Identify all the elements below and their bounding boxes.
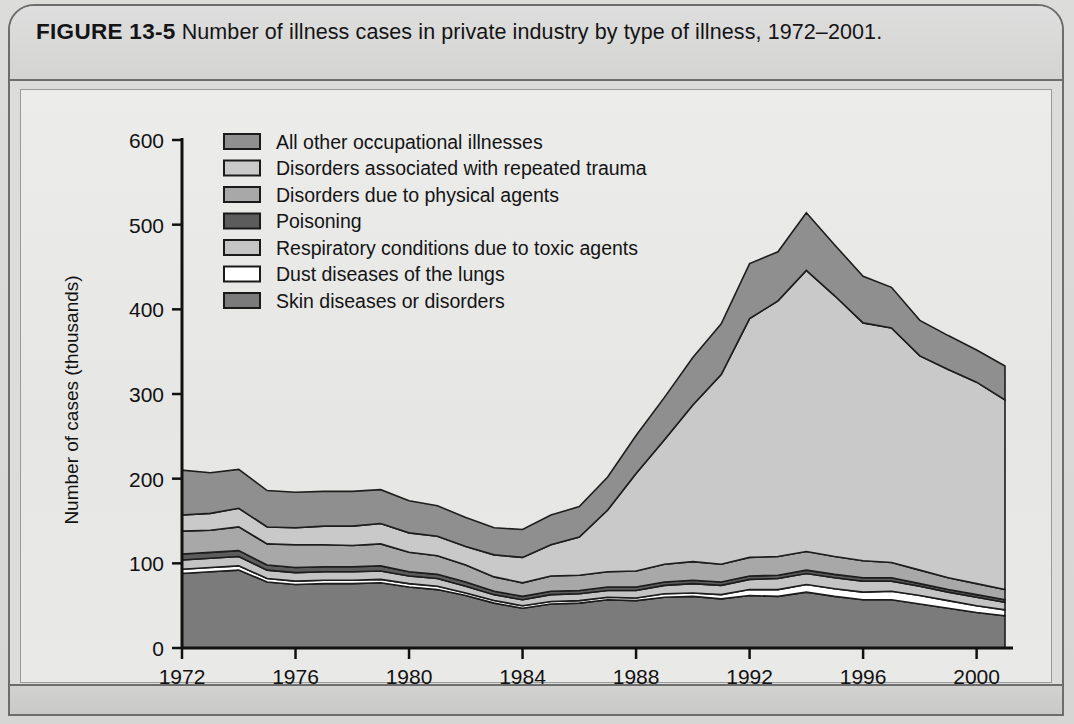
- legend-label: Skin diseases or disorders: [276, 290, 505, 312]
- x-tick-label: 1980: [386, 665, 433, 688]
- y-tick-label: 600: [129, 129, 164, 152]
- legend-label: Disorders due to physical agents: [276, 184, 559, 206]
- x-tick-label: 1972: [159, 665, 206, 688]
- y-tick-label: 400: [129, 298, 164, 321]
- y-tick-label: 100: [129, 552, 164, 575]
- legend-label: Disorders associated with repeated traum…: [276, 157, 647, 179]
- y-axis-ticks: 6005004003002001000: [129, 129, 182, 660]
- legend-swatch: [224, 187, 260, 202]
- y-tick-label: 300: [129, 383, 164, 406]
- legend-label: Respiratory conditions due to toxic agen…: [276, 237, 638, 259]
- y-axis-title-text: Number of cases (thousands): [61, 275, 82, 524]
- stacked-area-chart: 6005004003002001000 19721976198019841988…: [0, 0, 1074, 724]
- y-axis-title: Number of cases (thousands): [61, 275, 82, 524]
- x-axis-ticks: 19721976198019841988199219962000: [159, 648, 1000, 688]
- y-tick-label: 200: [129, 468, 164, 491]
- x-tick-label: 1988: [613, 665, 660, 688]
- x-tick-label: 2000: [953, 665, 1000, 688]
- legend-swatch: [224, 214, 260, 229]
- x-tick-label: 1984: [499, 665, 546, 688]
- legend-swatch: [224, 240, 260, 255]
- legend-label: Dust diseases of the lungs: [276, 263, 505, 285]
- legend-swatch: [224, 267, 260, 282]
- legend-label: All other occupational illnesses: [276, 131, 543, 153]
- legend-swatch: [224, 134, 260, 149]
- x-tick-label: 1976: [272, 665, 319, 688]
- x-tick-label: 1992: [726, 665, 773, 688]
- legend-swatch: [224, 161, 260, 176]
- x-tick-label: 1996: [840, 665, 887, 688]
- y-tick-label: 500: [129, 214, 164, 237]
- legend-label: Poisoning: [276, 210, 362, 232]
- chart-legend: All other occupational illnessesDisorder…: [224, 131, 647, 312]
- figure-container: FIGURE 13-5 Number of illness cases in p…: [0, 0, 1074, 724]
- y-tick-label: 0: [152, 637, 164, 660]
- legend-swatch: [224, 293, 260, 308]
